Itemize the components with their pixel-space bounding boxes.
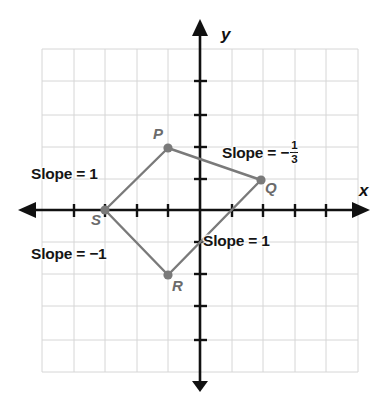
- x-axis-label: x: [359, 182, 368, 199]
- vertex-label-r: R: [172, 278, 183, 293]
- vertex-point-s: [100, 205, 109, 214]
- y-axis-label: y: [221, 26, 230, 43]
- vertex-label-p: P: [153, 126, 163, 141]
- slope-label-sp: Slope = 1: [31, 166, 98, 182]
- slope-label-qr: Slope = 1: [203, 233, 270, 249]
- slope-label-pq: Slope = −13: [222, 140, 298, 165]
- fraction-denominator: 3: [290, 153, 298, 165]
- slope-label-pq-text: Slope = −: [222, 144, 289, 161]
- figure-canvas: P Q R S y x Slope = 1 Slope = −1 Slope =…: [0, 0, 390, 394]
- axis-lines: [30, 33, 356, 386]
- y-axis-arrow-down: [192, 381, 208, 392]
- x-axis-arrow-left: [18, 202, 36, 218]
- slope-fraction-one-third: 13: [290, 140, 298, 165]
- axis-arrowheads: [18, 19, 370, 392]
- vertex-label-s: S: [91, 212, 101, 227]
- coordinate-plane-graphic: [0, 0, 390, 394]
- vertex-label-q: Q: [265, 180, 276, 195]
- fraction-numerator: 1: [290, 140, 298, 153]
- y-axis-arrow-up: [192, 19, 208, 36]
- quadrilateral-outline: [105, 148, 261, 275]
- slope-label-rs: Slope = −1: [31, 246, 107, 262]
- vertex-point-p: [163, 143, 172, 152]
- x-axis-arrow-right: [352, 202, 370, 218]
